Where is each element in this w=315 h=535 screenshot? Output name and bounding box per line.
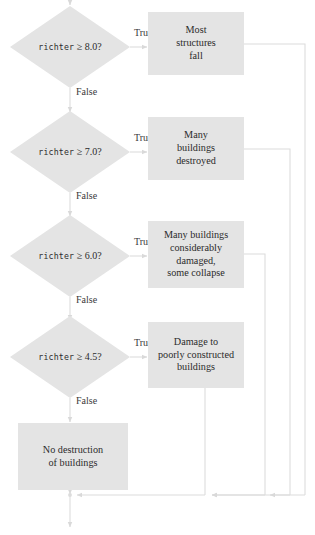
decision-richter-7-label: richter ≥ 7.0?	[38, 146, 101, 157]
outcome-no-destruction[interactable]: No destruction of buildings	[18, 423, 128, 490]
outcome-2-line-1: Many	[184, 129, 208, 140]
outcome-1-text: Most structures fall	[172, 24, 220, 63]
decision-var-1: richter	[38, 42, 74, 52]
return-o2-path	[244, 149, 290, 495]
outcome-many-buildings-destroyed[interactable]: Many buildings destroyed	[148, 117, 244, 180]
outcome-3-line-2: considerably	[170, 242, 222, 253]
outcome-2-text: Many buildings destroyed	[172, 129, 220, 168]
decision-var-4: richter	[38, 352, 74, 362]
decision-richter-8-label: richter ≥ 8.0?	[38, 41, 101, 52]
decision-richter-6-label: richter ≥ 6.0?	[38, 250, 101, 261]
outcome-many-buildings-damaged[interactable]: Many buildings considerably damaged, som…	[148, 221, 244, 288]
outcome-4-text: Damage to poorly constructed buildings	[154, 336, 238, 375]
outcome-3-text: Many buildings considerably damaged, som…	[160, 229, 232, 280]
outcome-1-line-2: structures	[176, 37, 216, 48]
outcome-damage-poorly-constructed[interactable]: Damage to poorly constructed buildings	[148, 322, 244, 388]
decision-var-2: richter	[38, 147, 74, 157]
outcome-1-line-1: Most	[186, 24, 207, 35]
outcome-4-line-1: Damage to	[174, 336, 218, 347]
outcome-4-line-2: poorly constructed	[158, 349, 234, 360]
outcome-3-line-3: damaged,	[176, 255, 215, 266]
edge-label-d1-false: False	[76, 86, 97, 97]
return-o3-path	[244, 254, 265, 495]
flowchart-canvas: richter ≥ 8.0? True False Most structure…	[0, 0, 315, 535]
outcome-2-line-3: destroyed	[176, 155, 216, 166]
decision-threshold-3: 6.0?	[85, 250, 102, 261]
merge-junction-dots	[68, 493, 72, 497]
outcome-most-structures-fall[interactable]: Most structures fall	[148, 12, 244, 75]
decision-var-3: richter	[38, 251, 74, 261]
edge-label-d4-false: False	[76, 395, 97, 406]
return-o1-path	[244, 44, 305, 495]
outcome-1-line-3: fall	[189, 50, 203, 61]
outcome-5-line-1: No destruction	[43, 444, 103, 455]
edge-label-d3-false: False	[76, 294, 97, 305]
decision-richter-45-label: richter ≥ 4.5?	[38, 351, 101, 362]
outcome-3-line-4: some collapse	[167, 267, 224, 278]
outcome-4-line-3: buildings	[177, 361, 215, 372]
outcome-5-line-2: of buildings	[49, 457, 98, 468]
decision-threshold-1: 8.0?	[85, 41, 102, 52]
outcome-5-text: No destruction of buildings	[39, 444, 107, 470]
decision-threshold-4: 4.5?	[85, 351, 102, 362]
outcome-2-line-2: buildings	[177, 142, 215, 153]
decision-threshold-2: 7.0?	[85, 146, 102, 157]
outcome-3-line-1: Many buildings	[164, 229, 228, 240]
edge-label-d2-false: False	[76, 190, 97, 201]
